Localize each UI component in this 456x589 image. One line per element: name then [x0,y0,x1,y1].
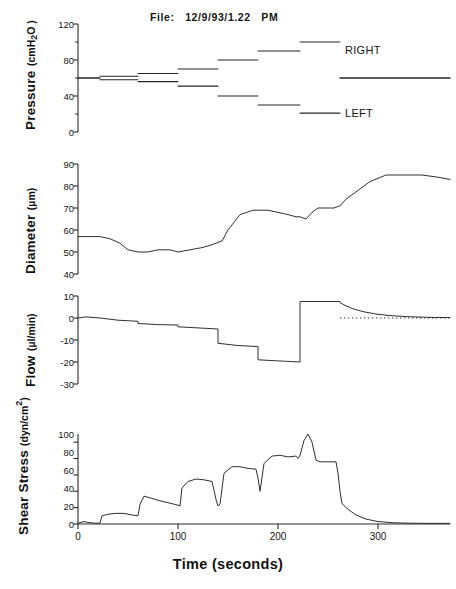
flow-ytick-0: 0 [48,313,74,324]
diameter-ytick-90: 90 [52,159,74,170]
flow-ytick-10: 10 [48,291,74,302]
shear-ytick-20: 20 [48,501,74,512]
diameter-ytick-40: 40 [52,269,74,280]
diameter-axis-units: (µm) [25,187,37,209]
shear-ytick-0: 0 [48,519,74,530]
shear-ytick-100: 100 [48,429,74,440]
flow-axis-units: (µl/min) [25,313,37,351]
flow-ytick-neg10: -10 [48,335,74,346]
shear-ytick-40: 40 [48,483,74,494]
physiology-figure: File: 12/9/93/1.22 PM Pressure (cmH2O ) … [0,0,456,589]
trace-flow [78,302,450,363]
trace-shear-stress [78,434,450,523]
diameter-ytick-70: 70 [52,203,74,214]
xtick-300: 300 [364,531,392,542]
trace-right [78,42,450,78]
xtick-100: 100 [164,531,192,542]
trace-left [78,78,450,113]
shear-ytick-60: 60 [48,465,74,476]
diameter-axis-label: Diameter [23,214,38,273]
diameter-ytick-60: 60 [52,225,74,236]
xtick-0: 0 [68,531,88,542]
x-axis-title: Time (seconds) [0,556,456,572]
shear-ytick-80: 80 [48,447,74,458]
diameter-ytick-50: 50 [52,247,74,258]
flow-axis-label: Flow [23,355,38,387]
shear-stress-axis-label: Shear Stress [16,450,31,535]
diameter-ytick-80: 80 [52,181,74,192]
xtick-200: 200 [264,531,292,542]
shear-stress-axis-units: (dyn/cm2) [18,397,30,446]
trace-diameter [78,175,450,252]
flow-ytick-neg20: -20 [48,357,74,368]
flow-ytick-neg30: -30 [48,379,74,390]
